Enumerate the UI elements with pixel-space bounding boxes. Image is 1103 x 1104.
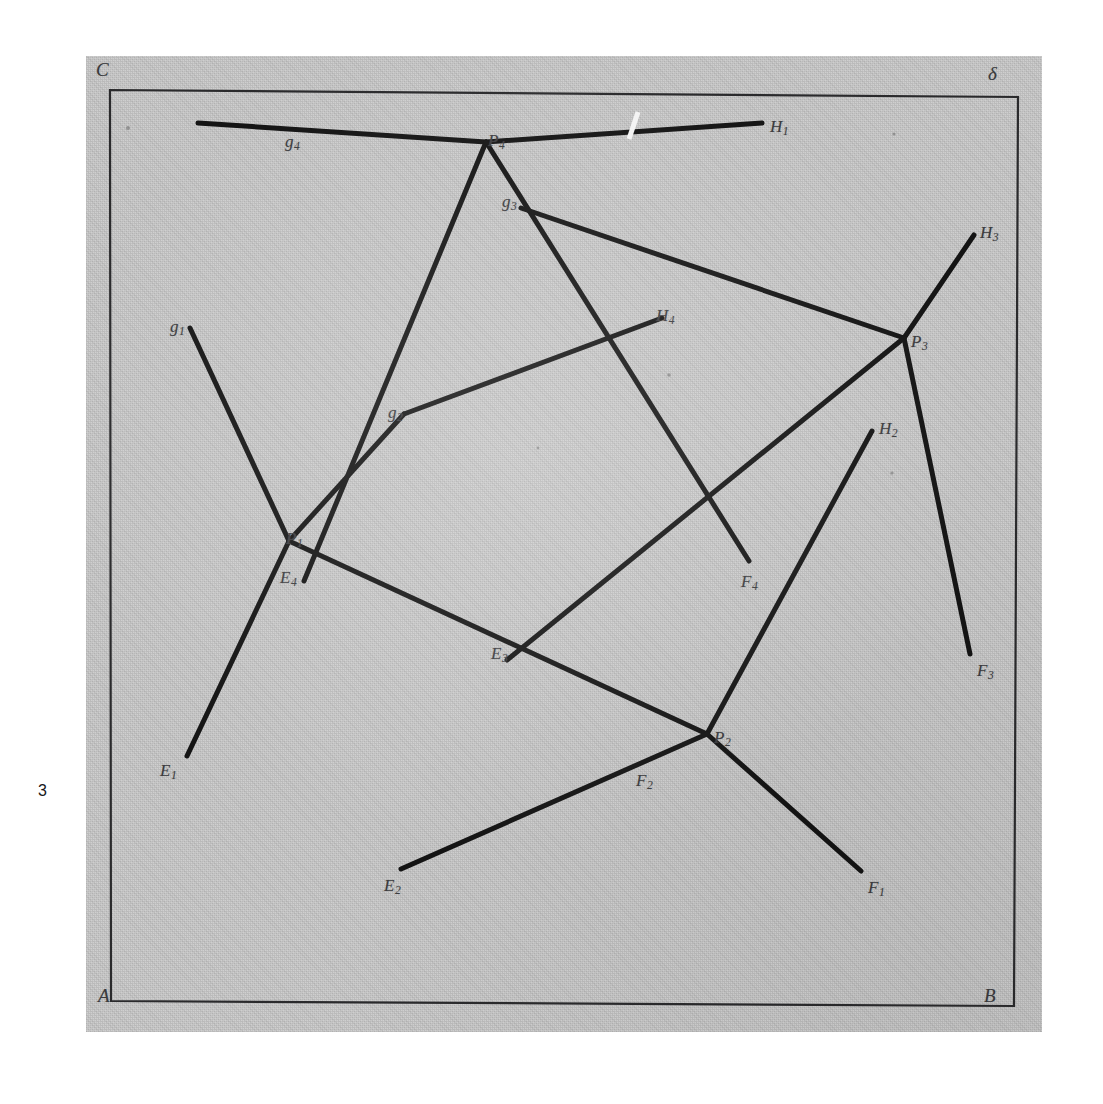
point-label-p3: P3 (911, 333, 928, 353)
segment-e3 (507, 338, 904, 660)
point-label-p2: P2 (714, 729, 731, 749)
figure-plate: C δ A B P1 P2 P3 P4 g1 g2 g3 g4 H1 H2 H3… (86, 56, 1042, 1032)
scratch-mark (629, 112, 638, 139)
line-label-h1: H1 (770, 118, 789, 138)
line-label-g4: g4 (285, 133, 300, 153)
line-label-g3: g3 (502, 193, 517, 213)
line-label-f4: F4 (741, 573, 758, 593)
line-label-e4: E4 (280, 569, 297, 589)
segment-g1 (190, 328, 289, 541)
page-number: 3 (38, 782, 47, 800)
segment-f1 (707, 734, 861, 871)
segment-e2 (401, 734, 707, 869)
line-label-e3: E3 (491, 645, 508, 665)
frame-border (110, 90, 1018, 1006)
segment-f3 (904, 338, 970, 654)
segment-e1 (187, 541, 289, 756)
geometric-figure (86, 56, 1042, 1032)
segment-h1 (486, 123, 762, 142)
figure-lines (187, 123, 974, 871)
point-label-p4: P4 (488, 132, 505, 152)
line-label-g1: g1 (170, 318, 185, 338)
line-label-g2: g2 (388, 404, 403, 424)
line-label-h3: H3 (980, 224, 999, 244)
segment-g3 (521, 208, 904, 338)
corner-label-top-right: δ (988, 64, 997, 83)
corner-label-bottom-right: B (984, 986, 996, 1005)
point-label-p1: P1 (286, 530, 303, 550)
line-label-f3: F3 (977, 662, 994, 682)
segment-g4 (198, 123, 486, 142)
line-label-h4: H4 (656, 307, 675, 327)
segment-e4 (304, 142, 486, 581)
corner-label-bottom-left: A (98, 986, 110, 1005)
line-label-e2: E2 (384, 877, 401, 897)
line-label-h2: H2 (879, 420, 898, 440)
line-label-e1: E1 (160, 762, 177, 782)
corner-label-top-left: C (96, 60, 109, 79)
line-label-f1: F1 (868, 879, 885, 899)
segment-g2 (289, 414, 404, 541)
page-canvas: 3 (0, 0, 1103, 1104)
segment-h3 (904, 235, 974, 338)
segment-h4 (404, 318, 662, 414)
line-label-f2: F2 (636, 772, 653, 792)
segment-f2 (289, 541, 707, 734)
